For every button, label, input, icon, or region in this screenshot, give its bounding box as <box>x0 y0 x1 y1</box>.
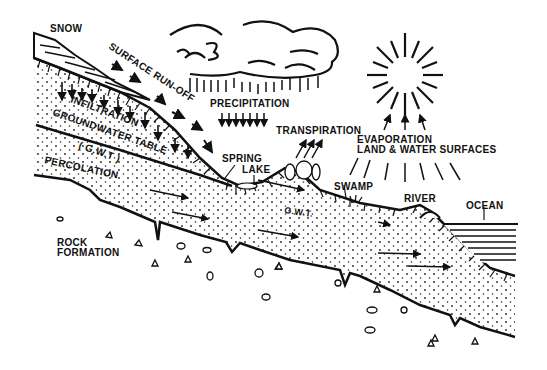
label-spring: SPRING <box>222 153 262 164</box>
label-ocean: OCEAN <box>466 200 504 211</box>
evaporation-arrows <box>384 115 425 130</box>
label-snow: SNOW <box>50 23 83 34</box>
label-precipitation: PRECIPITATION <box>210 98 290 109</box>
rain-streaks <box>190 76 318 94</box>
label-river: RIVER <box>404 193 437 204</box>
hydrologic-cycle-diagram: SNOW SURFACE RUN-OFF PRECIPITATION TRANS… <box>0 0 547 370</box>
transpiration-arrows <box>296 140 322 158</box>
label-transpiration: TRANSPIRATION <box>276 125 361 136</box>
sun-icon <box>367 33 443 117</box>
cloud-icon <box>170 21 338 78</box>
label-land-water-surfaces: LAND & WATER SURFACES <box>357 144 496 155</box>
trees <box>285 161 320 180</box>
precipitation-arrows <box>222 113 264 126</box>
evaporation-streaks <box>350 158 460 182</box>
label-formation: FORMATION <box>57 247 120 258</box>
label-lake: LAKE <box>242 164 270 175</box>
label-swamp: SWAMP <box>334 181 373 192</box>
